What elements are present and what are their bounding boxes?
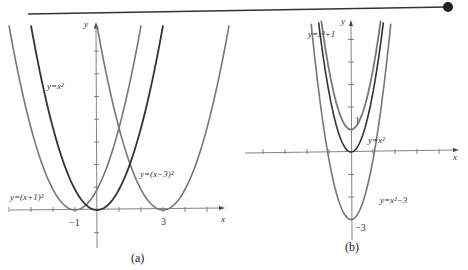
tick-label-neg1: −1	[69, 217, 80, 228]
x-axis-label-b: x	[452, 152, 457, 162]
x-axis-a	[10, 208, 222, 210]
label-x-squared-a: y=x²	[46, 81, 64, 91]
y-axis-label-b: y	[340, 16, 345, 26]
caption-b: (b)	[345, 240, 359, 254]
label-x-squared-minus-3: y=x²−3	[379, 195, 408, 205]
header-dot	[443, 2, 453, 12]
curve-x-plus-1-squared	[9, 26, 141, 211]
label-x-squared-plus-1: y=x²+1	[307, 29, 335, 39]
tick-label-neg3: −3	[355, 222, 366, 233]
x-axis-arrow-a	[219, 206, 225, 210]
y-axis-a	[96, 25, 97, 248]
label-x-minus-3-squared: y=(x−3)²	[139, 169, 174, 179]
y-axis-arrow-b	[349, 20, 353, 26]
x-axis-label-a: x	[220, 214, 225, 224]
label-x-plus-1-squared: y=(x+1)²	[9, 192, 44, 202]
label-x-squared-b: y=x²	[367, 135, 385, 145]
y-axis-b	[351, 24, 352, 240]
panel-a: y x −1 3 y=x² y=(x+1)² y=(x−3)² (a)	[9, 19, 229, 265]
panel-b: y x 1 −3 y=x²+1 y=x² y=x²−3 (b)	[245, 16, 459, 254]
caption-a: (a)	[131, 251, 144, 265]
figure: y x −1 3 y=x² y=(x+1)² y=(x−3)² (a) y x …	[0, 0, 468, 270]
header-rule	[28, 7, 447, 14]
curve-x-minus-3-squared	[97, 26, 229, 211]
y-axis-label-a: y	[83, 19, 88, 29]
tick-label-3: 3	[161, 216, 166, 227]
